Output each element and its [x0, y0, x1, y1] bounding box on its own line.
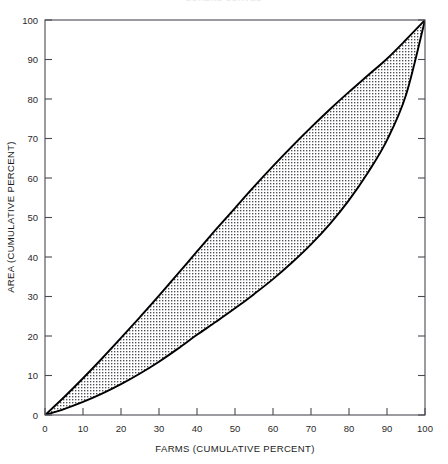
x-axis-tick-labels: 0102030405060708090100 — [42, 423, 433, 434]
y-axis-title: AREA (CUMULATIVE PERCENT) — [5, 141, 16, 293]
x-tick-label-60: 60 — [268, 423, 279, 434]
x-tick-label-100: 100 — [417, 423, 433, 434]
y-tick-label-70: 70 — [27, 133, 38, 144]
y-tick-label-10: 10 — [27, 370, 38, 381]
y-tick-label-90: 90 — [27, 54, 38, 65]
lorenz-curve-plot: 0102030405060708090100 01020304050607080… — [0, 0, 448, 464]
y-tick-label-40: 40 — [27, 252, 38, 263]
x-tick-label-70: 70 — [306, 423, 317, 434]
y-tick-label-20: 20 — [27, 331, 38, 342]
y-tick-label-50: 50 — [27, 212, 38, 223]
y-tick-label-30: 30 — [27, 291, 38, 302]
x-axis-title: FARMS (CUMULATIVE PERCENT) — [155, 443, 314, 454]
x-tick-label-30: 30 — [154, 423, 165, 434]
shaded-band-between-curves — [45, 20, 425, 415]
x-tick-label-10: 10 — [78, 423, 89, 434]
x-tick-label-40: 40 — [192, 423, 203, 434]
y-axis-ticks-left — [45, 20, 52, 415]
x-tick-label-80: 80 — [344, 423, 355, 434]
y-tick-label-80: 80 — [27, 94, 38, 105]
x-tick-label-90: 90 — [382, 423, 393, 434]
x-axis-ticks — [45, 408, 425, 415]
y-tick-label-60: 60 — [27, 173, 38, 184]
y-tick-label-0: 0 — [33, 410, 38, 421]
shaded-band-group — [45, 20, 425, 415]
y-axis-ticks-right — [418, 20, 425, 415]
y-tick-label-100: 100 — [22, 15, 38, 26]
y-axis-tick-labels: 0102030405060708090100 — [22, 15, 38, 421]
x-tick-label-0: 0 — [42, 423, 47, 434]
chart-figure: LORENZ CURVES 01020304050607 — [0, 0, 448, 464]
x-tick-label-20: 20 — [116, 423, 127, 434]
x-tick-label-50: 50 — [230, 423, 241, 434]
